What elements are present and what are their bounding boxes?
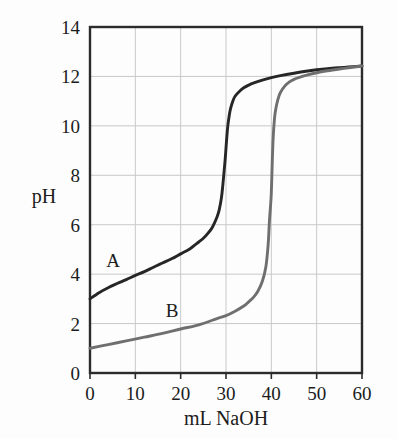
x-tick-label: 10 [126, 383, 145, 404]
x-tick-labels: 0102030405060 [85, 383, 371, 404]
x-tick-label: 50 [307, 383, 326, 404]
x-tick-label: 40 [262, 383, 281, 404]
x-tick-label: 0 [85, 383, 95, 404]
curve-label-a: A [106, 250, 120, 271]
y-tick-label: 14 [61, 17, 81, 38]
y-tick-label: 8 [71, 165, 81, 186]
gridlines-group [90, 27, 362, 373]
y-tick-label: 2 [71, 314, 81, 335]
chart-canvas: 0102030405060 02468101214 pH mL NaOH A B [0, 0, 397, 439]
curve-label-b: B [166, 300, 179, 321]
x-axis-title: mL NaOH [184, 407, 268, 429]
x-tick-label: 20 [171, 383, 190, 404]
x-tick-label: 60 [353, 383, 372, 404]
titration-chart-figure: 0102030405060 02468101214 pH mL NaOH A B [0, 0, 397, 439]
y-tick-label: 12 [61, 66, 80, 87]
y-tick-labels: 02468101214 [61, 17, 81, 384]
y-axis-title: pH [32, 185, 56, 208]
y-tick-label: 10 [61, 116, 80, 137]
y-tick-label: 4 [71, 264, 81, 285]
y-tick-label: 6 [71, 215, 81, 236]
y-tick-label: 0 [71, 363, 81, 384]
x-tick-label: 30 [217, 383, 236, 404]
